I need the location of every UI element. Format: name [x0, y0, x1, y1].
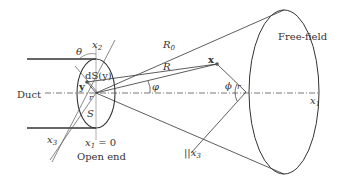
y-vector-label: y: [78, 81, 86, 92]
duct-label: Duct: [17, 89, 41, 100]
R-label: R: [162, 61, 171, 72]
x3-axis-label: x3: [47, 134, 58, 147]
phi-small-arc: [148, 81, 150, 93]
cone-top-edge: [96, 10, 284, 93]
parallel-x3-line: [191, 92, 246, 153]
phi-small-label: φ: [152, 81, 159, 92]
x3-axis-lower: [50, 93, 96, 160]
field-point-x-marker: [215, 62, 219, 66]
field-point-x-label: x: [208, 54, 215, 65]
duct-radiation-diagram: Duct Open end Free-field x1 = 0 x1 x2 x3…: [0, 0, 338, 179]
theta-arc: [80, 54, 96, 59]
phi-r-label: r: [237, 82, 242, 91]
parallel-x3-label: ||x3: [184, 147, 201, 160]
phi-large-label: ϕ: [225, 80, 232, 91]
x1-eq-0-label: x1 = 0: [85, 137, 116, 150]
open-end-label: Open end: [77, 151, 126, 162]
R0-label: R0: [162, 39, 176, 52]
free-field-label: Free-field: [278, 31, 328, 42]
S-label: S: [87, 108, 94, 119]
x2-axis-label: x2: [92, 39, 103, 52]
theta-label: θ: [76, 46, 82, 57]
dS-label: dS(y): [85, 70, 112, 81]
